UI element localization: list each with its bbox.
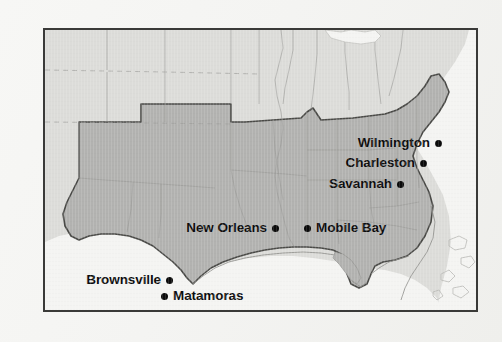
city-dot-icon xyxy=(166,277,173,284)
city-dot-icon xyxy=(272,225,279,232)
city-label: Charleston xyxy=(345,156,415,170)
city-dot-icon xyxy=(420,160,427,167)
city-label: Wilmington xyxy=(358,136,430,150)
map-frame: WilmingtonCharlestonSavannahNew OrleansM… xyxy=(43,28,478,312)
city-dot-icon xyxy=(397,181,404,188)
city-dot-icon xyxy=(161,293,168,300)
city-dot-icon xyxy=(304,225,311,232)
page-background: WilmingtonCharlestonSavannahNew OrleansM… xyxy=(0,0,502,342)
city-label: Mobile Bay xyxy=(316,221,386,235)
city-label: New Orleans xyxy=(186,221,267,235)
city-label: Matamoras xyxy=(173,289,243,303)
city-label-layer: WilmingtonCharlestonSavannahNew OrleansM… xyxy=(45,30,476,310)
city-label: Brownsville xyxy=(86,273,161,287)
city-dot-icon xyxy=(435,140,442,147)
city-label: Savannah xyxy=(329,177,392,191)
